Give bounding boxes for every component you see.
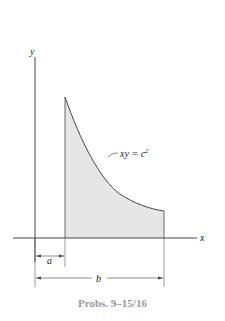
figure-caption: Probs. 9–15/16	[0, 297, 225, 309]
equation-leader	[108, 153, 118, 157]
curve-equation: xy = c2	[119, 147, 149, 159]
diagram-canvas: y x a b xy = c2	[0, 0, 225, 321]
shaded-area	[65, 97, 164, 238]
dimension-a-label: a	[47, 255, 52, 266]
x-axis-label: x	[199, 232, 205, 243]
y-axis-label: y	[29, 46, 35, 57]
dimension-b-label: b	[96, 273, 101, 284]
